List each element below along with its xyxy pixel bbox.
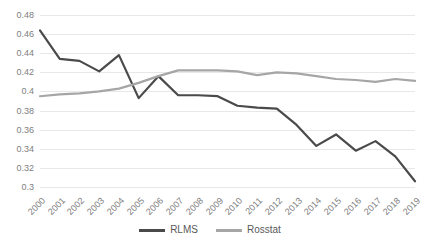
series-line-rosstat bbox=[40, 70, 415, 96]
legend-item-rlms[interactable]: RLMS bbox=[139, 225, 198, 235]
legend-swatch-icon bbox=[216, 229, 242, 232]
y-axis-tick-label: 0.48 bbox=[0, 11, 34, 20]
legend-item-rosstat[interactable]: Rosstat bbox=[216, 225, 281, 235]
y-axis-tick-label: 0.38 bbox=[0, 106, 34, 115]
y-axis-tick-label: 0.32 bbox=[0, 163, 34, 172]
y-axis-tick-label: 0.34 bbox=[0, 144, 34, 153]
plot-area bbox=[40, 15, 415, 187]
legend-swatch-icon bbox=[139, 229, 165, 232]
legend-label: Rosstat bbox=[247, 225, 281, 235]
gridline bbox=[40, 187, 415, 188]
chart-legend: RLMSRosstat bbox=[0, 225, 420, 235]
series-line-rlms bbox=[40, 30, 415, 181]
y-axis-tick-label: 0.4 bbox=[0, 87, 34, 96]
legend-label: RLMS bbox=[170, 225, 198, 235]
y-axis-tick-label: 0.36 bbox=[0, 125, 34, 134]
y-axis-tick-label: 0.46 bbox=[0, 30, 34, 39]
series-lines bbox=[40, 15, 415, 187]
y-axis-tick-label: 0.44 bbox=[0, 49, 34, 58]
y-axis-tick-label: 0.42 bbox=[0, 68, 34, 77]
y-axis-tick-label: 0.3 bbox=[0, 183, 34, 192]
